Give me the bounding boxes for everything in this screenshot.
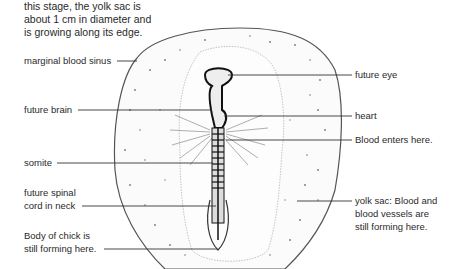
label-future-brain: future brain	[24, 103, 72, 116]
label-heart: heart	[355, 109, 377, 122]
label-marginal-blood-sinus: marginal blood sinus	[24, 54, 111, 67]
label-yolk-sac: yolk sac: Blood and blood vessels are st…	[355, 194, 437, 233]
label-body-forming: Body of chick is still forming here.	[24, 229, 96, 255]
label-blood-enters: Blood enters here.	[355, 133, 433, 146]
label-future-spinal-cord: future spinal cord in neck	[24, 186, 76, 212]
label-somite: somite	[24, 156, 52, 169]
label-future-eye: future eye	[355, 68, 397, 81]
